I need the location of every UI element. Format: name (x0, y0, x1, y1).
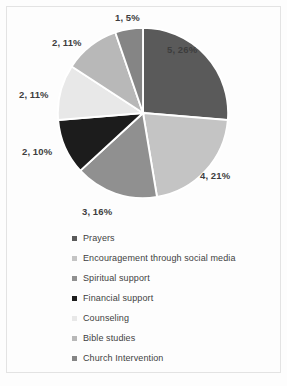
data-label-financial-support: 2, 10% (22, 146, 52, 157)
legend-item[interactable]: Encouragement through social media (0, 248, 287, 268)
legend-swatch-icon (72, 236, 77, 241)
data-label-church-intervention: 1, 5% (115, 12, 140, 23)
chart-legend: PrayersEncouragement through social medi… (0, 228, 287, 368)
data-label-spiritual-support: 3, 16% (82, 206, 112, 217)
legend-swatch-icon (72, 276, 77, 281)
legend-swatch-icon (72, 336, 77, 341)
page-border-bottom (6, 372, 281, 373)
legend-swatch-icon (72, 296, 77, 301)
legend-item[interactable]: Spiritual support (0, 268, 287, 288)
legend-item-label: Bible studies (83, 333, 135, 343)
data-label-bible-studies: 2, 11% (52, 37, 82, 48)
chart-plot-area: 5, 26% 4, 21% 3, 16% 2, 10% 2, 11% 2, 11… (0, 0, 287, 232)
legend-item[interactable]: Financial support (0, 288, 287, 308)
legend-item[interactable]: Counseling (0, 308, 287, 328)
data-label-prayers: 5, 26% (167, 44, 197, 55)
legend-swatch-icon (72, 356, 77, 361)
legend-item-label: Church Intervention (83, 353, 163, 363)
pie-slice (143, 28, 228, 120)
legend-item[interactable]: Prayers (0, 228, 287, 248)
pie-chart-figure: 5, 26% 4, 21% 3, 16% 2, 10% 2, 11% 2, 11… (0, 0, 287, 386)
data-label-counseling: 2, 11% (19, 89, 49, 100)
legend-swatch-icon (72, 316, 77, 321)
legend-item-label: Financial support (83, 293, 153, 303)
legend-item[interactable]: Church Intervention (0, 348, 287, 368)
legend-item-label: Counseling (83, 313, 129, 323)
legend-swatch-icon (72, 256, 77, 261)
legend-item[interactable]: Bible studies (0, 328, 287, 348)
legend-item-label: Spiritual support (83, 273, 150, 283)
legend-item-label: Prayers (83, 233, 115, 243)
data-label-encouragement: 4, 21% (200, 170, 230, 181)
legend-item-label: Encouragement through social media (83, 253, 236, 263)
